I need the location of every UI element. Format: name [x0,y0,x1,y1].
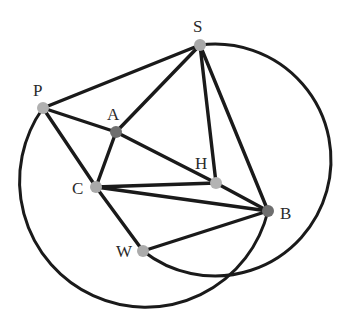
label-a: A [107,105,120,124]
segment-ac [96,132,116,187]
label-b: B [280,204,291,223]
geometry-diagram: SPAHCBW [0,0,342,310]
point-w [137,245,149,257]
label-p: P [33,81,42,100]
point-p [37,102,49,114]
label-c: C [72,179,83,198]
segment-ch [96,183,216,187]
point-labels: SPAHCBW [33,17,291,261]
segment-pa [43,108,116,132]
label-s: S [193,17,202,36]
left-circle-arc [20,108,268,307]
line-segments [43,45,268,251]
point-b [262,205,274,217]
segment-ps [43,45,200,108]
circle-arcs [20,44,331,307]
point-s [194,39,206,51]
points [37,39,274,257]
segment-wb [143,211,268,251]
segment-pc [43,108,96,187]
label-h: H [195,154,207,173]
segment-sa [116,45,200,132]
label-w: W [116,242,133,261]
point-c [90,181,102,193]
point-h [210,177,222,189]
point-a [110,126,122,138]
